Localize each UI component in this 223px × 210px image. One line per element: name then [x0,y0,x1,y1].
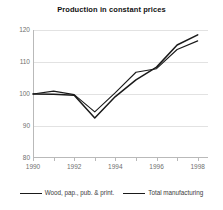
series-lines-layer [0,0,223,210]
series-line [33,41,198,112]
legend-line-icon [20,193,42,194]
legend-item-label: Wood, pap., pub. & print. [45,190,115,196]
chart-legend: Wood, pap., pub. & print.Total manufactu… [0,190,223,196]
series-line [33,35,198,118]
legend-item[interactable]: Wood, pap., pub. & print. [20,190,115,196]
legend-line-icon [123,193,145,194]
legend-item-label: Total manufacturing [148,190,203,196]
chart-container: Production in constant prices 1201101009… [0,0,223,210]
legend-item[interactable]: Total manufacturing [123,190,203,196]
